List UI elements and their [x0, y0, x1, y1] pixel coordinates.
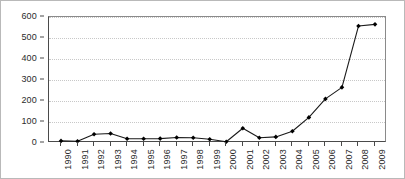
y-tick-label: 100 — [21, 117, 37, 126]
x-tick-mark — [93, 142, 94, 146]
y-tick-label: 300 — [21, 75, 37, 84]
data-point-marker — [356, 24, 361, 29]
y-tick-mark — [40, 16, 44, 17]
x-tick-mark — [308, 142, 309, 146]
plot-area — [48, 16, 386, 142]
y-tick-mark — [40, 142, 44, 143]
x-tick-label: 1991 — [81, 149, 90, 170]
y-tick-mark — [40, 58, 44, 59]
x-tick-label: 1993 — [114, 149, 123, 170]
y-tick-label: 200 — [21, 96, 37, 105]
data-point-marker — [274, 135, 279, 140]
x-tick-label: 2000 — [229, 149, 238, 170]
data-point-marker — [207, 137, 212, 142]
x-tick-mark — [176, 142, 177, 146]
x-tick-mark — [110, 142, 111, 146]
data-series — [49, 17, 387, 143]
x-tick-label: 1997 — [180, 149, 189, 170]
x-tick-label: 2009 — [378, 149, 387, 170]
y-tick-mark — [40, 100, 44, 101]
x-tick-mark — [192, 142, 193, 146]
x-tick-label: 1990 — [64, 149, 73, 170]
x-tick-mark — [209, 142, 210, 146]
series-line — [61, 24, 375, 141]
x-tick-label: 2007 — [345, 149, 354, 170]
data-point-marker — [373, 22, 378, 27]
y-axis: 0100200300400500600 — [1, 1, 44, 179]
x-tick-label: 2008 — [361, 149, 370, 170]
y-tick-label: 500 — [21, 33, 37, 42]
y-tick-label: 600 — [21, 12, 37, 21]
x-tick-mark — [357, 142, 358, 146]
line-chart: 0100200300400500600 19901991199219931994… — [0, 0, 405, 179]
x-tick-label: 1999 — [213, 149, 222, 170]
x-tick-label: 1992 — [97, 149, 106, 170]
x-tick-mark — [60, 142, 61, 146]
data-point-marker — [92, 132, 97, 137]
data-point-marker — [141, 137, 146, 142]
x-tick-mark — [126, 142, 127, 146]
x-tick-mark — [324, 142, 325, 146]
data-point-marker — [191, 135, 196, 140]
x-tick-mark — [291, 142, 292, 146]
x-tick-label: 1996 — [163, 149, 172, 170]
x-tick-label: 2004 — [295, 149, 304, 170]
x-tick-mark — [77, 142, 78, 146]
x-tick-label: 2006 — [328, 149, 337, 170]
data-point-marker — [174, 135, 179, 140]
x-tick-mark — [242, 142, 243, 146]
y-tick-label: 0 — [32, 138, 37, 147]
y-tick-mark — [40, 79, 44, 80]
x-tick-mark — [143, 142, 144, 146]
y-tick-mark — [40, 37, 44, 38]
x-tick-label: 1998 — [196, 149, 205, 170]
data-point-marker — [108, 131, 113, 136]
x-tick-mark — [258, 142, 259, 146]
x-tick-mark — [275, 142, 276, 146]
x-tick-label: 1995 — [147, 149, 156, 170]
x-tick-label: 2002 — [262, 149, 271, 170]
y-tick-label: 400 — [21, 54, 37, 63]
data-point-marker — [125, 137, 130, 142]
x-tick-mark — [225, 142, 226, 146]
data-point-marker — [257, 135, 262, 140]
y-tick-mark — [40, 121, 44, 122]
x-tick-label: 2003 — [279, 149, 288, 170]
x-tick-mark — [374, 142, 375, 146]
x-tick-label: 1994 — [130, 149, 139, 170]
x-tick-mark — [159, 142, 160, 146]
x-tick-label: 2005 — [312, 149, 321, 170]
x-tick-mark — [341, 142, 342, 146]
data-point-marker — [158, 136, 163, 141]
x-tick-label: 2001 — [246, 149, 255, 170]
